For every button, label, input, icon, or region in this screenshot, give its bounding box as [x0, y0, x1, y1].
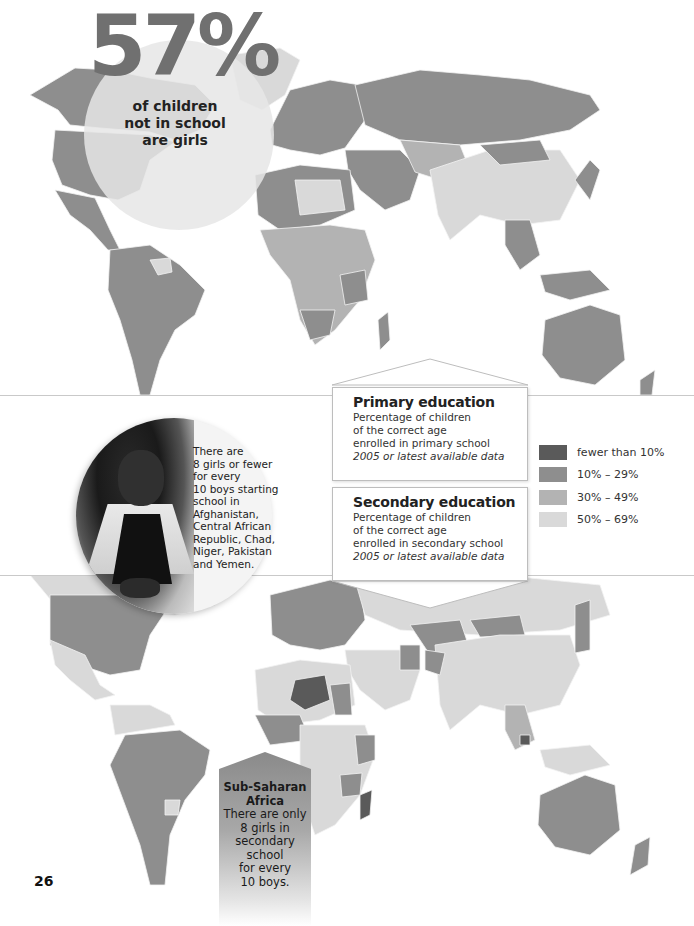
- region-australia: [542, 305, 625, 385]
- primary-education-callout: Primary education Percentage of children…: [332, 387, 528, 481]
- photo-callout-line: 10 boys starting: [193, 483, 285, 496]
- legend-swatch-lt10: [539, 445, 567, 460]
- region-brazil-argentina: [110, 730, 210, 885]
- photo-callout-line: Republic, Chad,: [193, 533, 285, 546]
- photo-callout-line: Afghanistan,: [193, 508, 285, 521]
- africa-callout-line: for every: [216, 862, 314, 876]
- world-map-secondary: [0, 575, 694, 926]
- legend-item: 30% – 49%: [539, 486, 664, 509]
- photo-face: [118, 450, 164, 506]
- legend-label: 10% – 29%: [577, 468, 638, 481]
- photo-callout-line: for every: [193, 470, 285, 483]
- region-mozambique: [360, 790, 372, 820]
- primary-callout-line: of the correct age: [353, 424, 517, 437]
- secondary-education-map: [0, 575, 694, 926]
- headline-caption: of children not in school are girls: [110, 98, 240, 149]
- legend-item: 50% – 69%: [539, 509, 664, 532]
- headline-caption-line: not in school: [110, 115, 240, 132]
- legend-item: fewer than 10%: [539, 441, 664, 464]
- photo-callout-line: 8 girls or fewer: [193, 458, 285, 471]
- photo-callout-line: Niger, Pakistan: [193, 545, 285, 558]
- region-uruguay: [165, 800, 180, 815]
- africa-callout-line: 8 girls in: [216, 822, 314, 836]
- headline-stat: 57%: [88, 4, 277, 88]
- primary-callout-note: 2005 or latest available data: [353, 450, 517, 463]
- photo-callout-line: Central African: [193, 520, 285, 533]
- primary-callout-line: Percentage of children: [353, 411, 517, 424]
- legend-label: 30% – 49%: [577, 491, 638, 504]
- region-indonesia: [540, 270, 610, 300]
- legend-swatch-30-49: [539, 490, 567, 505]
- africa-callout-title: Africa: [216, 795, 314, 809]
- region-southern-africa: [300, 310, 335, 340]
- africa-callout-text: Sub-Saharan Africa There are only 8 girl…: [216, 781, 314, 889]
- secondary-education-callout: Secondary education Percentage of childr…: [332, 487, 528, 581]
- region-se-asia: [505, 220, 540, 270]
- map-legend: fewer than 10% 10% – 29% 30% – 49% 50% –…: [539, 441, 664, 531]
- secondary-callout-title: Secondary education: [353, 494, 517, 510]
- legend-label: 50% – 69%: [577, 513, 638, 526]
- africa-callout-line: 10 boys.: [216, 876, 314, 890]
- student-photo: [76, 418, 194, 614]
- secondary-pointer: [332, 580, 528, 610]
- headline-caption-line: of children: [110, 98, 240, 115]
- region-australia: [538, 775, 620, 855]
- region-tanzania: [340, 773, 362, 797]
- region-ethiopia: [355, 735, 375, 765]
- africa-callout-title: Sub-Saharan: [216, 781, 314, 795]
- headline-caption-line: are girls: [110, 132, 240, 149]
- secondary-callout-note: 2005 or latest available data: [353, 550, 517, 563]
- photo-callout-line: and Yemen.: [193, 558, 285, 571]
- secondary-callout-line: Percentage of children: [353, 511, 517, 524]
- secondary-callout-line: enrolled in secondary school: [353, 537, 517, 550]
- region-iran: [400, 645, 420, 670]
- region-cambodia: [520, 735, 530, 745]
- region-indonesia: [540, 745, 610, 775]
- primary-pointer: [332, 355, 528, 387]
- photo-callout-line: There are: [193, 445, 285, 458]
- legend-item: 10% – 29%: [539, 464, 664, 487]
- region-new-zealand: [630, 837, 650, 875]
- region-tanzania: [340, 270, 368, 305]
- page-number: 26: [34, 873, 53, 889]
- photo-callout-text: There are 8 girls or fewer for every 10 …: [193, 445, 285, 570]
- secondary-callout-line: of the correct age: [353, 524, 517, 537]
- region-japan: [575, 160, 600, 200]
- legend-swatch-50-69: [539, 512, 567, 527]
- photo-hand: [120, 578, 160, 598]
- primary-callout-line: enrolled in primary school: [353, 437, 517, 450]
- region-new-zealand: [640, 370, 655, 395]
- africa-callout-line: secondary school: [216, 835, 314, 862]
- region-libya-chad: [295, 180, 345, 215]
- region-japan: [575, 600, 590, 653]
- legend-label: fewer than 10%: [577, 446, 664, 459]
- region-madagascar: [378, 312, 390, 350]
- region-russia: [355, 70, 600, 145]
- legend-swatch-10-29: [539, 467, 567, 482]
- primary-callout-title: Primary education: [353, 394, 517, 410]
- africa-callout-line: There are only: [216, 808, 314, 822]
- photo-callout-line: school in: [193, 495, 285, 508]
- region-north-south-america: [110, 705, 175, 735]
